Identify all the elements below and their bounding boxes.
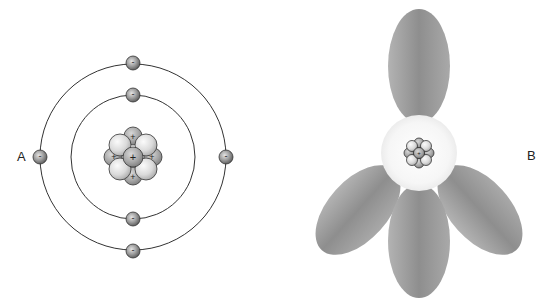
atom-b-orbital-model: + <box>300 9 539 298</box>
svg-text:+: + <box>130 172 135 182</box>
svg-text:-: - <box>132 213 135 223</box>
svg-text:-: - <box>39 151 42 161</box>
panel-label-b: B <box>527 149 536 162</box>
atom-diagram: + + + + + <box>0 0 551 307</box>
nucleus-a: + + + + + <box>104 127 162 185</box>
electron-inner-bottom: - <box>126 212 140 226</box>
electron-outer-right: - <box>219 150 233 164</box>
svg-text:+: + <box>130 132 135 142</box>
svg-text:-: - <box>132 57 135 67</box>
svg-text:+: + <box>417 150 421 156</box>
electron-outer-top: - <box>126 56 140 70</box>
svg-text:+: + <box>130 151 136 163</box>
svg-text:-: - <box>132 89 135 99</box>
electron-outer-left: - <box>33 150 47 164</box>
svg-text:-: - <box>225 151 228 161</box>
panel-label-a: A <box>17 150 26 163</box>
orbital-lobe-top <box>388 9 450 123</box>
proton-center: + <box>123 147 143 167</box>
orbital-lobe-bottom <box>388 184 450 298</box>
atom-a-bohr-model: + + + + + <box>33 56 233 258</box>
electron-inner-top: - <box>126 88 140 102</box>
electron-outer-bottom: - <box>126 244 140 258</box>
svg-text:-: - <box>132 245 135 255</box>
nucleus-b: + <box>404 138 434 168</box>
